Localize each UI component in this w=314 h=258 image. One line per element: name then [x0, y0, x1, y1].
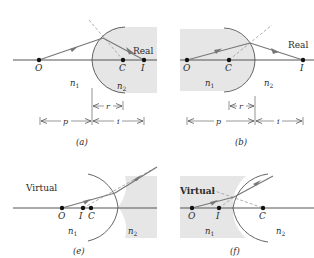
label-I: I [299, 63, 304, 73]
label-O: O [35, 63, 43, 73]
label-n2: n2 [276, 226, 285, 237]
center-point [261, 206, 265, 210]
dim-p-label: p [216, 117, 221, 126]
label-C: C [225, 63, 232, 73]
panel-f: O I C Virtual n1 n2 (f) [179, 174, 314, 256]
image-point [217, 206, 221, 210]
ray-arrow-icon [70, 47, 78, 53]
caption-e: (e) [73, 246, 85, 256]
dim-p-label: p [63, 117, 68, 126]
label-C: C [259, 211, 266, 221]
image-type-label: Virtual [179, 186, 216, 196]
image-point [301, 58, 305, 62]
refraction-diagram: O C I Real n1 n2 r p i (a) O C [0, 0, 314, 258]
object-point [185, 58, 189, 62]
label-O: O [188, 211, 196, 221]
label-I: I [140, 63, 145, 73]
dim-r-label: r [239, 102, 244, 111]
image-type-label: Virtual [25, 183, 57, 193]
center-point [89, 206, 93, 210]
label-n2: n2 [264, 78, 273, 89]
label-n1: n1 [68, 226, 77, 237]
label-C: C [88, 211, 95, 221]
ray-arrow-icon [271, 48, 279, 54]
dim-i-label: i [277, 117, 280, 126]
dim-i-label: i [117, 117, 120, 126]
dim-r-label: r [106, 102, 111, 111]
panel-a: O C I Real n1 n2 r p i (a) [13, 20, 157, 147]
object-point [190, 206, 194, 210]
label-C: C [119, 63, 126, 73]
center-point [121, 58, 125, 62]
label-I: I [215, 211, 220, 221]
label-O: O [58, 211, 66, 221]
image-point [81, 206, 85, 210]
caption-b: (b) [235, 137, 247, 147]
object-point [37, 58, 41, 62]
caption-f: (f) [230, 246, 240, 256]
panel-e: O I C Virtual n1 n2 (e) [13, 167, 157, 256]
panel-b: O C I Real n1 n2 r p i (b) [180, 25, 314, 147]
label-n1: n1 [70, 78, 79, 89]
label-O: O [183, 63, 191, 73]
ray-arrow-icon [83, 199, 91, 205]
object-point [60, 206, 64, 210]
image-point [142, 58, 146, 62]
caption-a: (a) [76, 137, 88, 147]
label-I: I [78, 211, 83, 221]
center-point [227, 58, 231, 62]
image-type-label: Real [288, 40, 308, 50]
image-type-label: Real [133, 46, 153, 56]
